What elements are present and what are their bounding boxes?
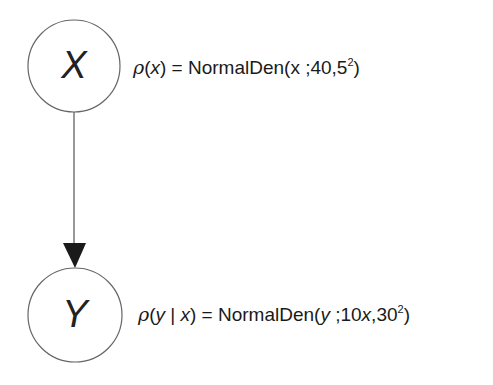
rho-symbol: ρ [133,56,144,78]
paren-close-end: ) [404,304,410,325]
rho-symbol: ρ [138,303,149,325]
var-x: x [151,57,161,78]
var-x: x [181,304,191,325]
paren-close-end: ) [354,57,360,78]
var-y: y [156,304,166,325]
formula-y-body: = NormalDen( [196,304,320,325]
node-x-label: X [44,45,104,85]
sd-value: ,30 [371,304,397,325]
formula-x: ρ(x) = NormalDen(x ;40,52) [133,56,360,79]
node-y-label: Y [45,294,105,334]
formula-y: ρ(y | x) = NormalDen(y ;10x,302) [138,303,410,326]
given-bar: | [165,304,181,325]
mean-coef: ;10 [330,304,362,325]
arrowhead-icon [63,243,86,268]
mean-var-x: x [362,304,372,325]
arg-var-y: y [320,304,330,325]
formula-x-body: = NormalDen(x ;40,5 [166,57,347,78]
